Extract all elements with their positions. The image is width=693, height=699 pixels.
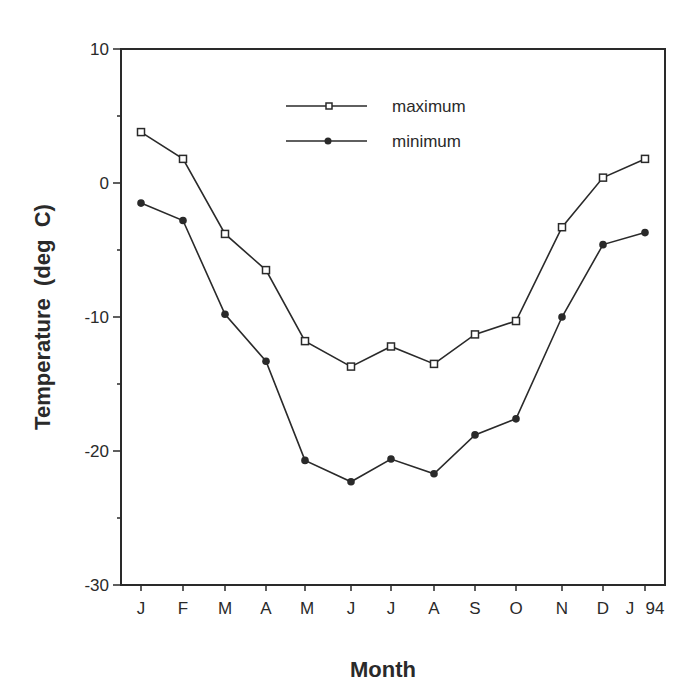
x-tick-label: F	[178, 599, 188, 618]
circle-marker-icon	[512, 415, 520, 423]
square-marker-icon	[180, 155, 187, 162]
square-marker-icon	[326, 103, 332, 109]
circle-marker-icon	[221, 311, 229, 319]
y-tick-label: -20	[84, 442, 109, 461]
square-marker-icon	[138, 129, 145, 136]
circle-marker-icon	[325, 138, 332, 145]
legend-item-minimum: minimum	[286, 132, 461, 151]
x-axis: JFMAMJJASONDJ94	[137, 585, 665, 618]
x-tick-label: D	[597, 599, 609, 618]
y-axis-title: Temperature (deg C)	[30, 204, 55, 430]
y-tick-label: -30	[84, 576, 109, 595]
square-marker-icon	[388, 343, 395, 350]
y-tick-label: 0	[100, 174, 109, 193]
circle-marker-icon	[471, 431, 479, 439]
circle-marker-icon	[558, 313, 566, 321]
x-axis-title: Month	[350, 657, 416, 682]
x-tick-label: J	[137, 599, 146, 618]
x-tick-label: J	[626, 599, 635, 618]
maximum-line	[141, 132, 645, 367]
x-tick-label: M	[300, 599, 314, 618]
legend-label: maximum	[392, 97, 466, 116]
temperature-chart: 100-10-20-30 JFMAMJJASONDJ94 maximummini…	[0, 0, 693, 699]
series-maximum	[138, 129, 649, 370]
y-tick-label: -10	[84, 308, 109, 327]
x-tick-label: N	[556, 599, 568, 618]
y-tick-label: 10	[90, 40, 109, 59]
x-tick-label: S	[469, 599, 480, 618]
legend: maximumminimum	[286, 97, 466, 151]
square-marker-icon	[431, 360, 438, 367]
legend-label: minimum	[392, 132, 461, 151]
square-marker-icon	[348, 363, 355, 370]
x-tick-label: 94	[646, 599, 665, 618]
y-axis: 100-10-20-30	[84, 40, 121, 595]
plot-frame	[121, 49, 665, 585]
square-marker-icon	[600, 174, 607, 181]
x-tick-label: A	[260, 599, 272, 618]
circle-marker-icon	[387, 455, 395, 463]
square-marker-icon	[222, 230, 229, 237]
square-marker-icon	[472, 331, 479, 338]
square-marker-icon	[642, 155, 649, 162]
plot-border	[121, 49, 665, 585]
x-tick-label: O	[509, 599, 522, 618]
circle-marker-icon	[262, 357, 270, 365]
circle-marker-icon	[430, 470, 438, 478]
square-marker-icon	[302, 338, 309, 345]
circle-marker-icon	[641, 229, 649, 237]
legend-item-maximum: maximum	[286, 97, 466, 116]
square-marker-icon	[513, 318, 520, 325]
circle-marker-icon	[599, 241, 607, 249]
circle-marker-icon	[301, 457, 309, 465]
circle-marker-icon	[179, 217, 187, 225]
series-layer	[137, 129, 649, 486]
square-marker-icon	[263, 267, 270, 274]
x-tick-label: A	[428, 599, 440, 618]
x-tick-label: J	[347, 599, 356, 618]
square-marker-icon	[559, 224, 566, 231]
circle-marker-icon	[347, 478, 355, 486]
x-tick-label: J	[387, 599, 396, 618]
x-tick-label: M	[218, 599, 232, 618]
circle-marker-icon	[137, 199, 145, 207]
